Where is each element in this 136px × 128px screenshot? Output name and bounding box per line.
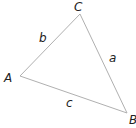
vertex-label-c: C xyxy=(74,0,83,14)
triangle-diagram: C A B a b c xyxy=(0,0,136,128)
side-label-a: a xyxy=(109,51,116,65)
vertex-label-a: A xyxy=(3,71,12,85)
side-label-b: b xyxy=(39,31,47,45)
side-label-c: c xyxy=(66,96,73,110)
vertex-label-b: B xyxy=(129,113,136,127)
